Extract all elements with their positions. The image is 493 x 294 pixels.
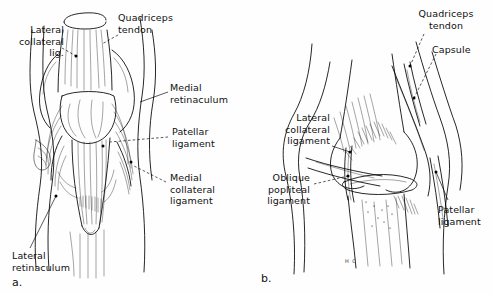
panel-letter-b: b. xyxy=(261,272,271,285)
panel-b-drawing xyxy=(283,34,462,274)
panel-b-leaders xyxy=(314,34,448,200)
label-patellar-ligament-b: Patellar ligament xyxy=(438,204,493,227)
label-quadriceps-tendon-b: Quadriceps tendon xyxy=(400,8,492,31)
label-medial-retinaculum: Medial retinaculum xyxy=(170,82,262,105)
panel-letter-a: a. xyxy=(12,276,22,289)
label-lateral-retinaculum: Lateral retinaculum xyxy=(12,250,122,273)
anatomy-figure: Lateral collateral lig. Quadriceps tendo… xyxy=(0,0,493,294)
label-lateral-collateral-ligament-b: Lateral collateral ligament xyxy=(252,112,330,147)
label-capsule: Capsule xyxy=(432,44,492,56)
label-patellar-ligament-a: Patellar ligament xyxy=(172,126,262,149)
label-lateral-collateral-lig: Lateral collateral lig. xyxy=(2,24,64,59)
label-oblique-popliteal-ligament: Oblique popliteal ligament xyxy=(248,172,310,207)
artist-signature: H C xyxy=(345,258,357,264)
label-quadriceps-tendon-a: Quadriceps tendon xyxy=(118,12,208,35)
